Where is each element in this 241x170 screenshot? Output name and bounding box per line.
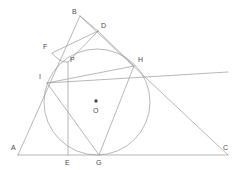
geometry-figure: ABCDEFGHIPO — [0, 0, 241, 170]
diagram-canvas — [0, 0, 241, 170]
point-label-f: F — [43, 43, 47, 50]
segment-DH — [98, 31, 134, 66]
point-label-e: E — [65, 159, 70, 166]
point-label-h: H — [138, 56, 143, 63]
point-label-d: D — [101, 22, 106, 29]
segment-DF — [52, 31, 98, 53]
point-label-b: B — [72, 8, 77, 15]
point-label-a: A — [11, 144, 16, 151]
point-label-i: I — [39, 73, 41, 80]
point-label-c: C — [223, 144, 228, 151]
side-BC — [80, 16, 228, 155]
point-label-o: O — [93, 107, 98, 114]
point-label-g: G — [96, 159, 101, 166]
circle-center-dot — [94, 99, 97, 102]
point-label-p: P — [70, 56, 75, 63]
segment-BD — [80, 16, 98, 31]
segment-IG — [47, 83, 99, 155]
